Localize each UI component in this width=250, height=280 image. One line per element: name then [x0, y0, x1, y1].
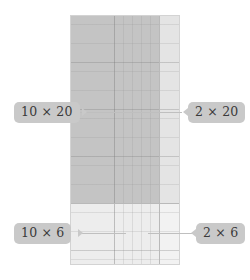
label-bottom-right-text: 2 × 6	[203, 227, 238, 240]
leader-line-bottom-left	[78, 233, 126, 234]
quadrant-top-right	[159, 15, 180, 203]
quadrant-bottom-right	[159, 203, 180, 265]
label-top-right-text: 2 × 20	[195, 106, 238, 119]
notch-bottom-left-icon	[78, 229, 83, 237]
label-badge-top-right[interactable]: 2 × 20	[188, 102, 245, 123]
grid-area	[70, 15, 180, 265]
notch-bottom-right-icon	[191, 229, 196, 237]
notch-top-right-icon	[183, 108, 188, 116]
label-badge-bottom-left[interactable]: 10 × 6	[14, 223, 71, 244]
label-badge-bottom-right[interactable]: 2 × 6	[196, 223, 245, 244]
area-model-diagram: 10 × 20 2 × 20 10 × 6 2 × 6	[0, 0, 250, 280]
label-top-left-text: 10 × 20	[21, 106, 73, 119]
horizontal-divider	[70, 203, 180, 204]
leader-line-top-right	[120, 112, 182, 113]
quadrant-bottom-left	[70, 203, 159, 265]
vertical-divider	[159, 15, 160, 265]
label-badge-top-left[interactable]: 10 × 20	[14, 102, 80, 123]
label-bottom-left-text: 10 × 6	[21, 227, 64, 240]
notch-top-left-icon	[82, 108, 87, 116]
